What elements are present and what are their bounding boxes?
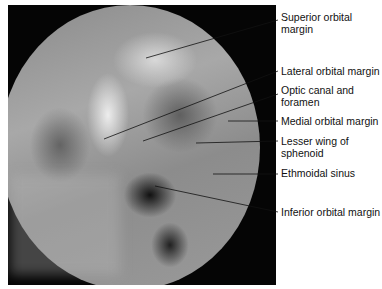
leader-lateral-orbital-margin xyxy=(104,71,278,139)
leader-superior-orbital-margin xyxy=(146,20,278,58)
label-line: Superior orbital xyxy=(281,11,381,23)
label-line: Medial orbital margin xyxy=(281,115,381,127)
label-lateral-orbital-margin: Lateral orbital margin xyxy=(281,65,381,77)
leader-optic-canal xyxy=(143,94,278,141)
label-optic-canal-and-foramen: Optic canal and foramen xyxy=(281,84,381,108)
label-superior-orbital-margin: Superior orbital margin xyxy=(281,11,381,35)
leader-lesser-wing-of-sphenoid xyxy=(196,141,278,143)
label-line: Optic canal and xyxy=(281,84,381,96)
label-line: Inferior orbital margin xyxy=(281,206,381,218)
label-line: sphenoid xyxy=(281,147,381,159)
label-line: Ethmoidal sinus xyxy=(281,167,381,179)
label-lesser-wing-of-sphenoid: Lesser wing of sphenoid xyxy=(281,135,381,159)
label-line: foramen xyxy=(281,96,381,108)
label-ethmoidal-sinus: Ethmoidal sinus xyxy=(281,167,381,179)
label-line: Lesser wing of xyxy=(281,135,381,147)
label-inferior-orbital-margin: Inferior orbital margin xyxy=(281,206,381,218)
label-medial-orbital-margin: Medial orbital margin xyxy=(281,115,381,127)
label-line: Lateral orbital margin xyxy=(281,65,381,77)
leader-inferior-orbital-margin xyxy=(155,186,278,212)
label-line: margin xyxy=(281,23,381,35)
